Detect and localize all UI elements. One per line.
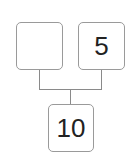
whole-box: 10: [48, 104, 94, 152]
connector-right-vertical: [101, 70, 102, 90]
connector-left-vertical: [39, 70, 40, 90]
part-box-right: 5: [78, 22, 125, 70]
connector-center-vertical: [70, 89, 71, 105]
part-box-left-empty[interactable]: [16, 22, 63, 70]
